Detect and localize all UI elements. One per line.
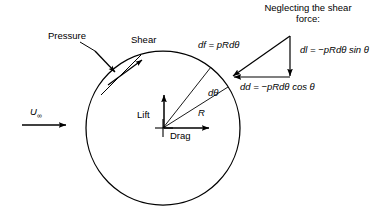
dl-equation: dl = −pRdθ sin θ <box>300 45 369 56</box>
freestream-velocity-label: U∞ <box>30 107 42 120</box>
force-diagram-figure: Neglecting the shear force: Pressure She… <box>0 0 373 215</box>
df-vector <box>233 36 290 76</box>
heading-block: Neglecting the shear force: <box>252 3 364 25</box>
pressure-leader <box>80 42 95 51</box>
freestream-symbol: U <box>30 106 37 117</box>
dd-equation: dd = −pRdθ cos θ <box>240 82 315 93</box>
pressure-arrow <box>95 51 115 72</box>
shear-label: Shear <box>131 35 156 46</box>
drag-label: Drag <box>170 131 191 142</box>
radius-label: R <box>198 108 205 119</box>
d-theta-label: dθ <box>208 88 218 99</box>
df-equation: df = pRdθ <box>198 40 239 51</box>
pressure-label: Pressure <box>48 31 86 42</box>
freestream-subscript: ∞ <box>37 112 42 119</box>
heading-line-2: force: <box>252 14 364 25</box>
lift-label: Lift <box>137 110 150 121</box>
shear-arrow <box>108 60 142 85</box>
